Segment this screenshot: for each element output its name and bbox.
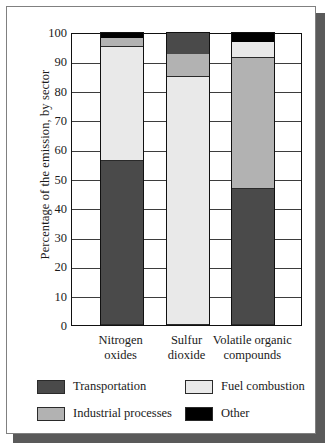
y-axis-tick-40: 40 <box>35 203 67 216</box>
figure-frame: Percentage of the emission, by sector 01… <box>6 6 316 434</box>
legend-item-fuel-combustion[interactable]: Fuel combustion <box>185 379 305 394</box>
y-axis-tick-50: 50 <box>35 173 67 186</box>
legend-swatch-other <box>185 407 213 421</box>
x-axis-label-volatile-organic-compounds: Volatile organic compounds <box>192 333 312 363</box>
y-axis-tick-0: 0 <box>35 320 67 333</box>
y-axis-tick-90: 90 <box>35 56 67 69</box>
bar-segment-transportation[interactable] <box>232 189 274 325</box>
y-axis-tick-10: 10 <box>35 290 67 303</box>
bar-segment-industrial-processes[interactable] <box>101 38 143 47</box>
bar-sulfur-dioxide[interactable] <box>166 32 210 325</box>
bar-segment-industrial-processes[interactable] <box>167 54 209 77</box>
legend-label: Other <box>221 406 249 421</box>
bar-segment-transportation[interactable] <box>101 161 143 325</box>
y-axis-tick-20: 20 <box>35 261 67 274</box>
legend-item-industrial-processes[interactable]: Industrial processes <box>37 406 172 421</box>
bar-segment-fuel-combustion[interactable] <box>167 77 209 325</box>
bar-segment-fuel-combustion[interactable] <box>101 47 143 161</box>
legend-label: Transportation <box>73 379 146 394</box>
legend-item-other[interactable]: Other <box>185 406 249 421</box>
legend-item-transportation[interactable]: Transportation <box>37 379 146 394</box>
bar-segment-fuel-combustion[interactable] <box>232 42 274 58</box>
chart-legend: TransportationFuel combustionIndustrial … <box>37 379 299 429</box>
legend-swatch-transportation <box>37 380 65 394</box>
y-axis-tick-100: 100 <box>35 27 67 40</box>
bar-segment-other[interactable] <box>232 32 274 42</box>
bar-volatile-organic-compounds[interactable] <box>231 32 275 325</box>
legend-label: Fuel combustion <box>221 379 305 394</box>
y-axis-tick-80: 80 <box>35 85 67 98</box>
bar-segment-industrial-processes[interactable] <box>232 58 274 188</box>
bar-nitrogen-oxides[interactable] <box>100 32 144 325</box>
y-axis-tick-30: 30 <box>35 232 67 245</box>
legend-label: Industrial processes <box>73 406 172 421</box>
bar-segment-transportation[interactable] <box>167 32 209 54</box>
legend-swatch-fuel-combustion <box>185 380 213 394</box>
legend-swatch-industrial-processes <box>37 407 65 421</box>
y-axis-tick-70: 70 <box>35 115 67 128</box>
y-axis-tick-60: 60 <box>35 144 67 157</box>
chart-plot-wrapper: Percentage of the emission, by sector 01… <box>7 7 317 435</box>
plot-area <box>71 33 302 326</box>
y-axis-tick-labels: 0102030405060708090100 <box>29 33 67 326</box>
